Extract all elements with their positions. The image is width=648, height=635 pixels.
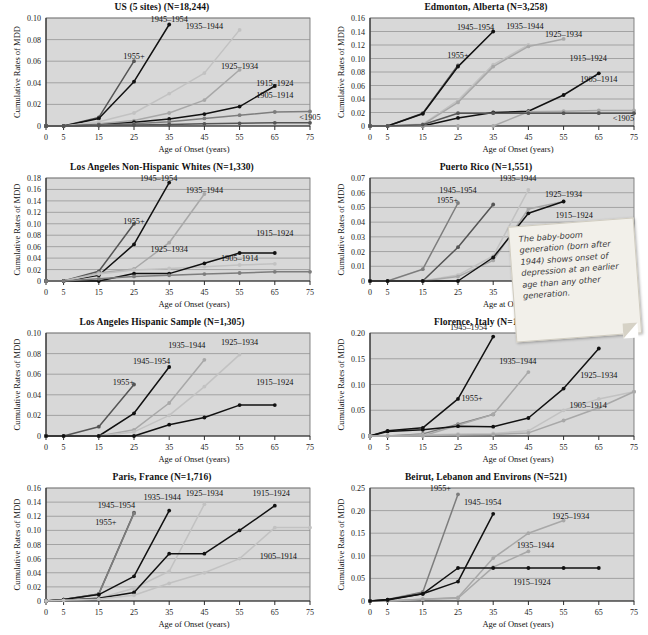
series-label: 1945–1954 (450, 323, 488, 332)
x-tick-label: 0 (44, 288, 48, 297)
baby-boom-annotation-note: The baby-boom generation (born after 194… (512, 222, 638, 338)
series-marker (97, 277, 101, 281)
series-marker (167, 273, 171, 277)
y-tick-label: 0 (37, 277, 41, 286)
x-tick-label: 25 (454, 133, 462, 142)
series-label: 1935–1944 (506, 22, 544, 31)
y-tick-label: 0.12 (27, 208, 41, 217)
series-label: 1935–1944 (186, 186, 224, 195)
x-tick-label: 25 (130, 288, 138, 297)
series-label: <1905 (299, 113, 320, 122)
series-marker (238, 353, 242, 357)
series-marker (132, 111, 136, 115)
series-marker (238, 28, 242, 32)
series-label: 1955+ (123, 52, 145, 61)
x-tick-label: 45 (200, 288, 208, 297)
x-tick-label: 55 (560, 608, 568, 617)
x-tick-label: 5 (62, 608, 66, 617)
y-tick-label: 0.02 (27, 266, 41, 275)
panel-us: US (5 sites) (N=18,244) 00.020.040.060.0… (0, 0, 324, 160)
x-tick-label: 0 (44, 443, 48, 452)
series-marker (456, 275, 460, 279)
series-marker (167, 581, 171, 585)
y-axis-title: Cumulative Rates of MDD (12, 18, 22, 126)
series-marker (132, 411, 136, 415)
series-marker (421, 434, 425, 438)
series-marker (97, 124, 101, 128)
series-marker (203, 416, 207, 420)
x-tick-label: 35 (489, 133, 497, 142)
series-label: 1935–1944 (143, 493, 181, 502)
series-marker (368, 434, 372, 438)
series-marker (44, 434, 48, 438)
series-marker (527, 207, 531, 211)
series-marker (368, 279, 372, 283)
series-marker (203, 112, 207, 116)
y-tick-label: 0.10 (27, 526, 41, 535)
series-label: 1945–1954 (98, 501, 136, 510)
series-marker (491, 566, 495, 570)
series-marker (203, 265, 207, 269)
series-marker (562, 93, 566, 97)
y-tick-label: 0.04 (27, 254, 41, 263)
x-tick-label: 0 (368, 608, 372, 617)
x-tick-label: 0 (368, 288, 372, 297)
series-label: 1905–1914 (221, 254, 259, 263)
y-tick-label: 0.08 (27, 350, 41, 359)
series-marker (386, 124, 390, 128)
series-label: 1925–1934 (552, 512, 590, 521)
x-tick-label: 55 (560, 133, 568, 142)
series-label: 1915–1924 (513, 578, 551, 587)
series-marker (273, 262, 277, 266)
figure-panel-grid: US (5 sites) (N=18,244) 00.020.040.060.0… (0, 0, 648, 635)
y-tick-label: 0.01 (351, 262, 365, 271)
series-label: 1925–1934 (580, 371, 618, 380)
series-marker (527, 416, 531, 420)
x-tick-label: 45 (200, 443, 208, 452)
x-tick-label: 35 (489, 608, 497, 617)
series-label: 1955+ (430, 484, 452, 493)
y-tick-label: 0.10 (27, 14, 41, 23)
x-tick-label: 75 (306, 443, 314, 452)
series-marker (273, 403, 277, 407)
y-tick-label: 0.12 (351, 41, 365, 50)
y-tick-label: 0.14 (351, 28, 365, 37)
series-marker (167, 123, 171, 127)
series-marker (527, 111, 531, 115)
x-tick-label: 25 (130, 608, 138, 617)
panel-la-hispanic-sample: Los Angeles Hispanic Sample (N=1,305) 00… (0, 315, 324, 470)
y-tick-label: 0.10 (27, 329, 41, 338)
x-tick-label: 45 (524, 443, 532, 452)
series-marker (491, 65, 495, 69)
x-tick-label: 75 (306, 608, 314, 617)
series-marker (203, 122, 207, 126)
x-axis-title: Age of Onset (years) (0, 454, 356, 464)
x-tick-label: 65 (271, 288, 279, 297)
series-marker (491, 111, 495, 115)
series-label: 1945–1954 (439, 186, 477, 195)
series-marker (132, 80, 136, 84)
x-tick-label: 25 (130, 133, 138, 142)
series-marker (238, 271, 242, 275)
y-tick-label: 0 (37, 122, 41, 131)
series-marker (491, 203, 495, 207)
series-label: 1905–1914 (580, 75, 618, 84)
series-marker (62, 279, 66, 283)
series-marker (132, 434, 136, 438)
x-tick-label: 35 (165, 608, 173, 617)
series-marker (421, 597, 425, 601)
series-marker (44, 124, 48, 128)
x-tick-label: 5 (386, 288, 390, 297)
series-marker (456, 101, 460, 105)
series-label: 1945–1954 (140, 174, 178, 183)
series-marker (456, 279, 460, 283)
y-tick-label: 0.20 (351, 507, 365, 516)
chart-paris: 00.020.040.060.080.100.120.140.160515253… (0, 470, 324, 635)
series-marker (203, 71, 207, 75)
x-tick-label: 5 (386, 608, 390, 617)
series-marker (97, 434, 101, 438)
series-marker (491, 433, 495, 437)
y-tick-label: 0.02 (27, 583, 41, 592)
y-axis-title: Cumulative Rates of MDD (336, 178, 346, 281)
series-marker (421, 592, 425, 596)
